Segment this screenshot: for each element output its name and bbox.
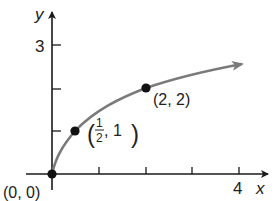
- point-origin: [47, 169, 56, 178]
- svg-text:): ): [131, 119, 139, 148]
- origin-label: (0, 0): [3, 184, 40, 201]
- y-ticks: [52, 45, 61, 131]
- point-two-two: [141, 83, 150, 92]
- y-axis-label: y: [34, 5, 45, 24]
- svg-text:1: 1: [96, 116, 103, 130]
- svg-text:2: 2: [96, 131, 103, 145]
- curve: [52, 64, 242, 174]
- y-tick-label-3: 3: [35, 37, 44, 56]
- x-axis-label: x: [255, 179, 265, 198]
- point-half-one: [70, 126, 79, 135]
- two-two-label: (2, 2): [153, 91, 190, 108]
- x-tick-label-4: 4: [233, 179, 242, 198]
- graph: y x 3 4 (0, 0) ( 1 2 , 1 ) (2, 2): [0, 0, 274, 201]
- x-ticks: [99, 167, 239, 174]
- half-one-label: ( 1 2 , 1 ): [87, 116, 139, 148]
- svg-text:(: (: [87, 119, 96, 148]
- svg-text:, 1: , 1: [104, 122, 122, 139]
